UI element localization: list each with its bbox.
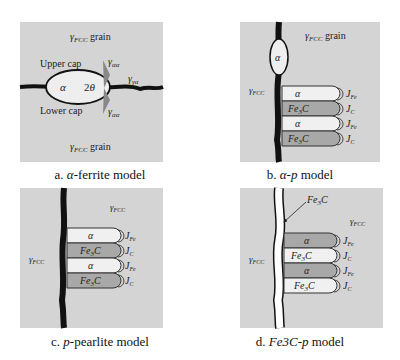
upper-cap-label: Upper cap <box>40 58 81 69</box>
svg-text:α: α <box>304 265 310 276</box>
panel-d-cementite-pearlite: Fe3C γFCC γFCC α Fe3C α Fe3C JFe JC JFe … <box>240 188 383 328</box>
panel-a-alpha-ferrite: γFCC grain Upper cap Lower cap α 2θ γαα … <box>20 22 163 162</box>
angle-2theta-label: 2θ <box>84 81 96 93</box>
svg-text:α: α <box>275 52 281 63</box>
caption-d: d. Fe3C-p model <box>200 334 400 350</box>
svg-text:α: α <box>295 88 301 99</box>
panel-c-pearlite: γFCC γFCC α Fe3C α Fe3C JFe JC JFe JC <box>20 188 163 328</box>
svg-text:α: α <box>88 230 94 241</box>
caption-a: a. α-ferrite model <box>0 167 200 183</box>
svg-text:α: α <box>304 235 310 246</box>
svg-text:α: α <box>295 118 301 129</box>
alpha-label: α <box>60 81 66 93</box>
caption-b: b. α-p model <box>200 167 400 183</box>
svg-text:α: α <box>88 260 94 271</box>
caption-c: c. p-pearlite model <box>0 334 200 350</box>
panel-b-alpha-pearlite: α γFCC grain γFCC α Fe3C α Fe3C JFe JC J… <box>240 22 380 162</box>
lower-cap-label: Lower cap <box>40 105 82 116</box>
